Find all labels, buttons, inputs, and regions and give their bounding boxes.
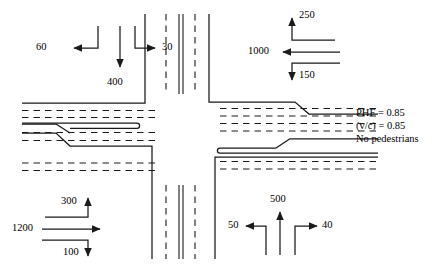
median-noses [22, 123, 378, 153]
median-island-east [217, 139, 378, 153]
note-vc-ratio: (v/c) = 0.85 [356, 119, 419, 132]
arrow-northbound-50 [246, 226, 266, 255]
curb-northwest [22, 14, 145, 103]
label-southbound-30: 30 [162, 42, 173, 53]
label-eastbound-100: 100 [63, 247, 79, 258]
median-nose-west-lower [22, 124, 70, 133]
label-northbound-40: 40 [322, 220, 333, 231]
label-northbound-500: 500 [270, 194, 286, 205]
label-northbound-50: 50 [228, 220, 239, 231]
arrow-westbound-250 [292, 18, 335, 40]
label-eastbound-1200: 1200 [12, 223, 33, 234]
arrows-northbound [246, 212, 317, 255]
intersection-diagram: 60 400 30 250 1000 150 300 1200 100 50 5… [0, 0, 442, 268]
note-phf: PHF = 0.85 [356, 106, 419, 119]
arrows-southbound [74, 26, 155, 67]
arrow-southbound-60 [74, 26, 98, 48]
arrow-northbound-40 [295, 226, 317, 255]
curb-southeast [215, 157, 378, 259]
label-westbound-150: 150 [299, 70, 315, 81]
note-pedestrians: No pedestrians [356, 132, 419, 145]
label-westbound-250: 250 [299, 10, 315, 21]
assumptions-notes: PHF = 0.85 (v/c) = 0.85 No pedestrians [356, 106, 419, 146]
curb-northeast [209, 14, 378, 114]
label-eastbound-300: 300 [61, 196, 77, 207]
label-westbound-1000: 1000 [248, 46, 269, 57]
center-median-double-line [179, 14, 183, 259]
label-southbound-60: 60 [36, 42, 47, 53]
label-southbound-400: 400 [107, 77, 123, 88]
